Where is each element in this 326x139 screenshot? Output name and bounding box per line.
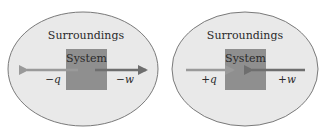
right-diagram: Surroundings System +q +w xyxy=(172,12,318,126)
work-label: +w xyxy=(278,73,296,85)
work-label: −w xyxy=(116,73,134,85)
system-label: System xyxy=(225,52,266,65)
system-label: System xyxy=(66,52,107,65)
left-diagram: Surroundings System −q −w xyxy=(8,12,158,126)
surroundings-label: Surroundings xyxy=(207,29,284,42)
surroundings-label: Surroundings xyxy=(48,29,125,42)
heat-label: −q xyxy=(45,73,61,85)
diagram-canvas: Surroundings System −q −w Surroundings S… xyxy=(0,0,326,139)
heat-label: +q xyxy=(201,73,217,85)
